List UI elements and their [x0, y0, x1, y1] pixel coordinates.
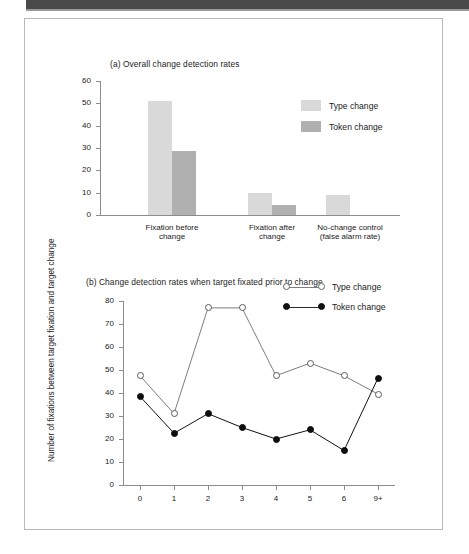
chart-b-x-tick-label: 1 [158, 494, 190, 503]
chart-b-y-tick [119, 485, 123, 486]
chart-b-data-point [307, 426, 314, 433]
chart-b-data-point [137, 393, 144, 400]
chart-b-x-tick [140, 486, 141, 490]
chart-b-data-point [273, 372, 280, 379]
chart-b-y-tick-label: 40 [92, 389, 114, 397]
chart-b-series-line [140, 308, 378, 414]
chart-a-x-tick-label: No-change control (false alarm rate) [292, 223, 408, 241]
chart-a-x-axis [100, 215, 400, 216]
chart-b-x-axis [123, 485, 395, 486]
chart-b-y-tick [119, 462, 123, 463]
chart-a-y-tick [96, 170, 100, 171]
legend-symbol-type-change [283, 282, 325, 292]
chart-b-x-tick [174, 486, 175, 490]
chart-a-y-tick-label: 40 [69, 122, 91, 130]
chart-a-y-tick [96, 148, 100, 149]
chart-b-y-tick [119, 416, 123, 417]
chart-b-y-tick [119, 347, 123, 348]
chart-a-y-tick-label: 10 [69, 189, 91, 197]
chart-b-data-point [307, 360, 314, 367]
chart-a-y-tick [96, 81, 100, 82]
chart-a-y-tick [96, 215, 100, 216]
chart-a-y-tick-label: 20 [69, 166, 91, 174]
chart-b-y-tick [119, 370, 123, 371]
chart-b-y-tick-label: 70 [92, 320, 114, 328]
chart-b-data-point [375, 391, 382, 398]
chart-a-bar [148, 101, 172, 215]
figure-frame: (a) Overall change detection rates 01020… [24, 18, 443, 530]
chart-b-x-tick [310, 486, 311, 490]
chart-b-data-point [239, 304, 246, 311]
chart-b-y-tick [119, 301, 123, 302]
chart-b-data-point [137, 372, 144, 379]
legend-symbol-token-change [283, 302, 325, 312]
chart-b-data-point [171, 410, 178, 417]
chart-panel-a: (a) Overall change detection rates 01020… [25, 19, 444, 269]
legend-item-type-change: Type change [301, 97, 383, 114]
chart-a-y-tick-label: 30 [69, 144, 91, 152]
chart-a-bar [272, 205, 296, 215]
chart-a-legend: Type change Token change [301, 97, 383, 139]
chart-b-legend: Type change Token change [283, 279, 386, 319]
page-header-band [26, 0, 469, 9]
chart-b-x-tick [242, 486, 243, 490]
chart-b-y-tick-label: 10 [92, 458, 114, 466]
chart-b-data-point [273, 436, 280, 443]
legend-item-token-change-line: Token change [283, 299, 386, 315]
chart-b-x-tick-label: 4 [260, 494, 292, 503]
chart-b-y-tick-label: 80 [92, 297, 114, 305]
chart-a-y-tick-label: 60 [69, 77, 91, 85]
chart-a-y-tick-label: 50 [69, 99, 91, 107]
chart-b-y-axis [123, 301, 124, 486]
chart-b-y-tick-label: 60 [92, 343, 114, 351]
chart-b-data-point [205, 304, 212, 311]
chart-a-bar [172, 151, 196, 215]
chart-a-bar [326, 195, 350, 215]
chart-b-y-tick [119, 393, 123, 394]
chart-a-x-tick-label: Fixation before change [114, 223, 230, 241]
chart-a-bar [248, 193, 272, 215]
legend-item-token-change: Token change [301, 118, 383, 135]
chart-b-x-tick-label: 9+ [362, 494, 394, 503]
legend-label-token-change-line: Token change [332, 302, 386, 312]
legend-label-type-change: Type change [329, 101, 378, 111]
chart-b-x-tick-label: 3 [226, 494, 258, 503]
chart-a-y-tick-label: 0 [69, 211, 91, 219]
chart-b-data-point [341, 372, 348, 379]
chart-a-y-tick [96, 193, 100, 194]
chart-b-data-point [239, 424, 246, 431]
legend-label-type-change-line: Type change [332, 282, 381, 292]
chart-a-y-tick [96, 126, 100, 127]
chart-a-y-axis [100, 81, 101, 216]
chart-a-y-tick [96, 103, 100, 104]
figure-page: (a) Overall change detection rates 01020… [0, 0, 469, 554]
chart-b-data-point [171, 430, 178, 437]
chart-b-y-tick [119, 439, 123, 440]
legend-label-token-change: Token change [329, 122, 383, 132]
chart-b-y-tick-label: 20 [92, 435, 114, 443]
chart-b-x-tick [378, 486, 379, 490]
chart-b-x-tick [344, 486, 345, 490]
chart-b-x-tick-label: 0 [124, 494, 156, 503]
chart-b-y-tick [119, 324, 123, 325]
chart-b-x-tick-label: 6 [328, 494, 360, 503]
chart-panel-b: (b) Change detection rates when target f… [25, 257, 444, 531]
chart-b-x-tick-label: 2 [192, 494, 224, 503]
chart-b-y-tick-label: 0 [92, 481, 114, 489]
chart-b-x-tick [208, 486, 209, 490]
chart-b-data-point [375, 375, 382, 382]
chart-b-data-point [205, 410, 212, 417]
legend-item-type-change-line: Type change [283, 279, 386, 295]
legend-swatch-token-change [301, 121, 321, 132]
chart-b-y-axis-label: Number of fixations between target fixat… [47, 282, 57, 462]
chart-b-y-tick-label: 50 [92, 366, 114, 374]
legend-swatch-type-change [301, 100, 321, 111]
page-header-band-shadow [26, 9, 469, 11]
chart-a-caption: (a) Overall change detection rates [110, 59, 240, 69]
chart-b-data-point [341, 447, 348, 454]
chart-b-x-tick-label: 5 [294, 494, 326, 503]
chart-b-x-tick [276, 486, 277, 490]
chart-b-y-tick-label: 30 [92, 412, 114, 420]
